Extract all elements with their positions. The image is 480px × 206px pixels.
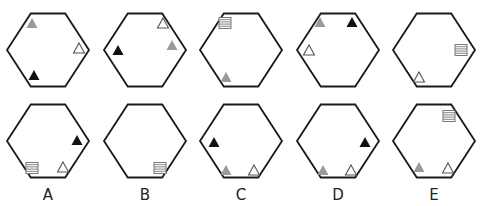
option-label-a[interactable]: A	[28, 186, 68, 204]
striped-square-icon	[455, 45, 467, 56]
option-label-c[interactable]: C	[221, 186, 261, 204]
hexagon-outline-icon	[200, 14, 282, 87]
option-b[interactable]	[104, 105, 186, 178]
option-d[interactable]	[297, 105, 379, 178]
option-a[interactable]	[7, 105, 89, 178]
option-e[interactable]	[393, 105, 475, 178]
option-c[interactable]	[200, 105, 282, 178]
hexagon-outline-icon	[104, 105, 186, 178]
hexagon-outline-icon	[393, 105, 475, 178]
option-label-e[interactable]: E	[414, 186, 454, 204]
sequence-hexagon-4	[297, 14, 379, 87]
sequence-hexagon-3	[200, 14, 282, 87]
option-label-d[interactable]: D	[318, 186, 358, 204]
striped-square-icon	[26, 163, 38, 174]
sequence-hexagon-2	[104, 14, 186, 87]
sequence-hexagon-5	[393, 14, 475, 87]
sequence-hexagon-1	[7, 14, 89, 87]
striped-square-icon	[154, 163, 166, 174]
striped-square-icon	[219, 18, 231, 29]
striped-square-icon	[443, 111, 455, 122]
option-label-b[interactable]: B	[125, 186, 165, 204]
puzzle-canvas	[0, 0, 480, 206]
